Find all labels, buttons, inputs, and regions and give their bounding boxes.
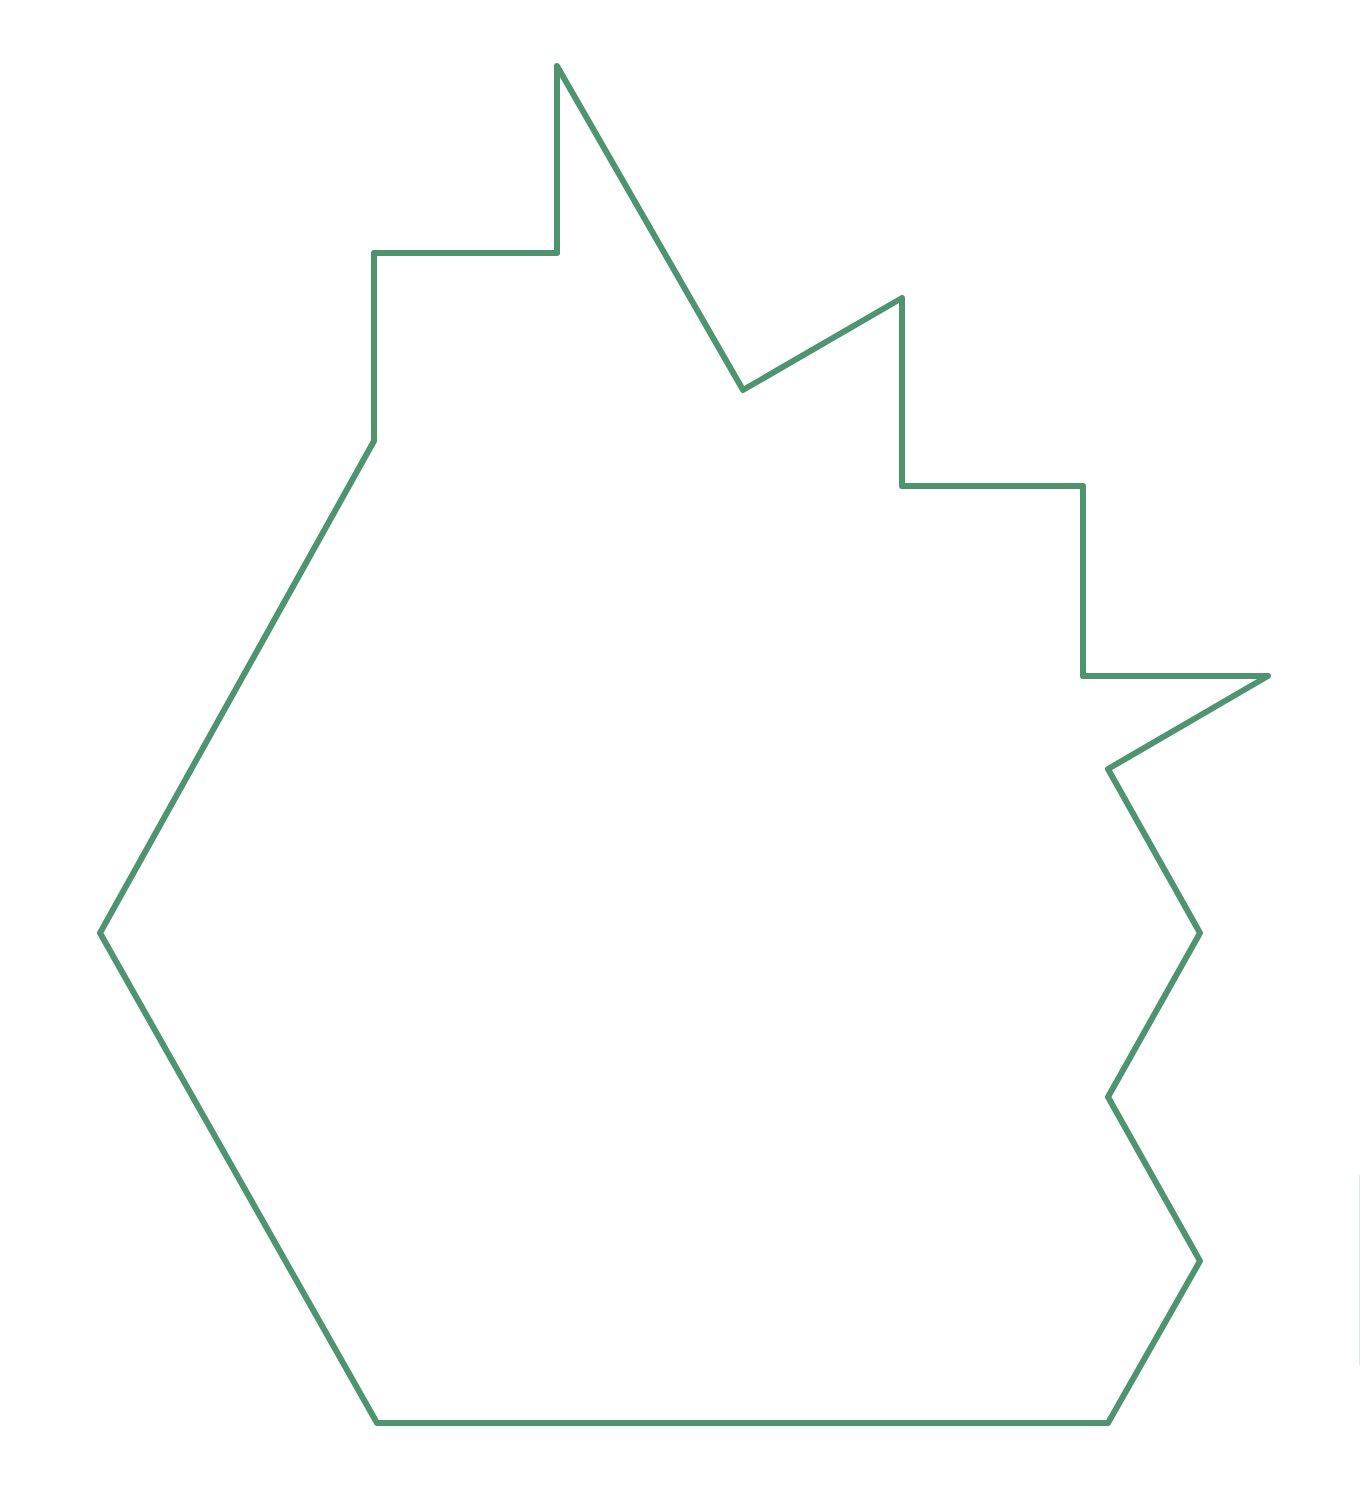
scan-edge-artifact — [1359, 1175, 1360, 1365]
polygon-outline — [100, 66, 1268, 1423]
polygon-shape — [0, 0, 1361, 1504]
diagram-canvas — [0, 0, 1361, 1504]
